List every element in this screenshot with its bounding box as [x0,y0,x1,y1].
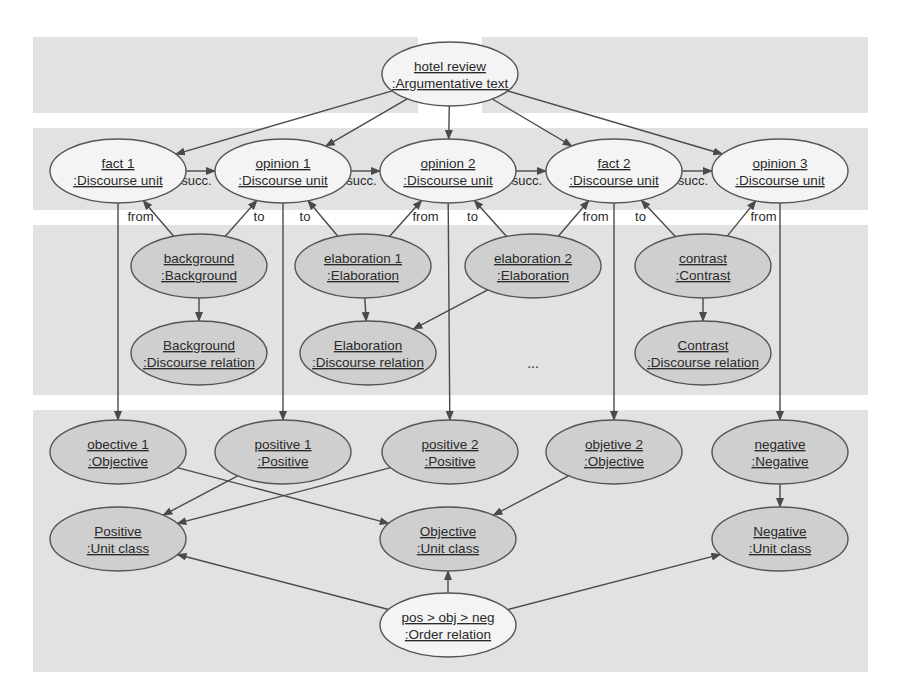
node-ellipse [712,139,848,203]
edge-label-to: to [635,209,646,224]
node-ellipse [380,507,516,571]
node-name: elaboration 1 [324,251,402,266]
node-elaboration2: elaboration 2:Elaboration [465,234,601,298]
node-contrast: contrast:Contrast [635,234,771,298]
band-document [33,37,418,113]
node-type: :Discourse relation [312,355,424,370]
node-negative: negative:Negative [712,420,848,484]
node-ellipse [635,234,771,298]
edge-label-from: from [583,209,609,224]
node-ellipse [50,139,186,203]
node-ellipse [382,42,518,106]
node-type: :Discourse unit [569,173,659,188]
node-negative-class: Negative:Unit class [712,507,848,571]
node-ellipse [465,234,601,298]
node-background: background:Background [131,234,267,298]
node-type: :Order relation [405,627,491,642]
node-ellipse [215,139,351,203]
edge-hotel-review-to-opinion2 [449,106,450,139]
node-ellipse [131,234,267,298]
node-ellipse [546,420,682,484]
node-contrast-rel: Contrast:Discourse relation [635,321,771,385]
node-name: pos > obj > neg [401,610,494,625]
node-objective2: objetive 2:Objective [546,420,682,484]
node-objective-class: Objective:Unit class [380,507,516,571]
node-objective1: obective 1:Objective [50,420,186,484]
node-ellipse [712,507,848,571]
node-type: :Positive [424,454,475,469]
node-type: :Elaboration [497,268,569,283]
node-fact1: fact 1:Discourse unit [50,139,186,203]
node-name: Contrast [677,338,728,353]
node-type: :Negative [751,454,808,469]
node-type: :Discourse unit [403,173,493,188]
node-ellipse [300,321,436,385]
node-ellipse [635,321,771,385]
node-type: :Background [161,268,237,283]
node-elaboration1: elaboration 1:Elaboration [295,234,431,298]
node-type: :Discourse unit [735,173,825,188]
node-ellipse [380,593,516,657]
node-ellipse [131,321,267,385]
node-ellipse [712,420,848,484]
node-type: :Positive [257,454,308,469]
edge-label-succ: succ. [512,173,542,188]
node-ellipse [380,139,516,203]
node-opinion2: opinion 2:Discourse unit [380,139,516,203]
node-type: :Discourse relation [647,355,759,370]
node-name: objetive 2 [585,437,643,452]
node-name: Objective [420,524,476,539]
node-elaboration-rel: Elaboration:Discourse relation [300,321,436,385]
node-background-rel: Background:Discourse relation [131,321,267,385]
node-positive-class: Positive:Unit class [50,507,186,571]
node-name: Positive [94,524,141,539]
edge-label-from: from [413,209,439,224]
node-type: :Unit class [87,541,150,556]
edge-label-to: to [254,209,265,224]
node-name: negative [754,437,805,452]
node-name: opinion 2 [421,156,476,171]
node-type: :Discourse unit [238,173,328,188]
node-name: hotel review [414,59,486,74]
node-type: :Argumentative text [392,76,509,91]
node-type: :Unit class [749,541,812,556]
node-type: :Discourse relation [143,355,255,370]
edge-label-succ: succ. [678,173,708,188]
band-document-right [482,37,868,113]
edge-label-from: from [751,209,777,224]
node-ellipse [50,507,186,571]
node-order: pos > obj > neg:Order relation [380,593,516,657]
node-name: obective 1 [87,437,149,452]
node-positive1: positive 1:Positive [215,420,351,484]
node-hotel-review: hotel review:Argumentative text [382,42,518,106]
node-ellipse [382,420,518,484]
node-name: Negative [753,524,806,539]
node-name: opinion 1 [256,156,311,171]
node-name: Elaboration [334,338,402,353]
node-name: contrast [679,251,727,266]
node-name: elaboration 2 [494,251,572,266]
node-ellipse [50,420,186,484]
node-name: fact 1 [101,156,134,171]
node-type: :Objective [88,454,148,469]
edge-label-from: from [128,209,154,224]
node-positive2: positive 2:Positive [382,420,518,484]
node-fact2: fact 2:Discourse unit [546,139,682,203]
ellipsis-more-relations: ... [527,355,539,371]
node-type: :Contrast [676,268,731,283]
node-ellipse [295,234,431,298]
node-name: background [164,251,235,266]
discourse-model-diagram: succ.succ.succ.succ.fromtotofromtofromto… [0,0,900,697]
node-type: :Elaboration [327,268,399,283]
node-ellipse [215,420,351,484]
node-opinion1: opinion 1:Discourse unit [215,139,351,203]
node-type: :Unit class [417,541,480,556]
node-name: Background [163,338,235,353]
node-name: fact 2 [597,156,630,171]
node-name: positive 2 [421,437,478,452]
node-opinion3: opinion 3:Discourse unit [712,139,848,203]
edge-label-to: to [300,209,311,224]
node-type: :Objective [584,454,644,469]
node-type: :Discourse unit [73,173,163,188]
edge-label-to: to [467,209,478,224]
